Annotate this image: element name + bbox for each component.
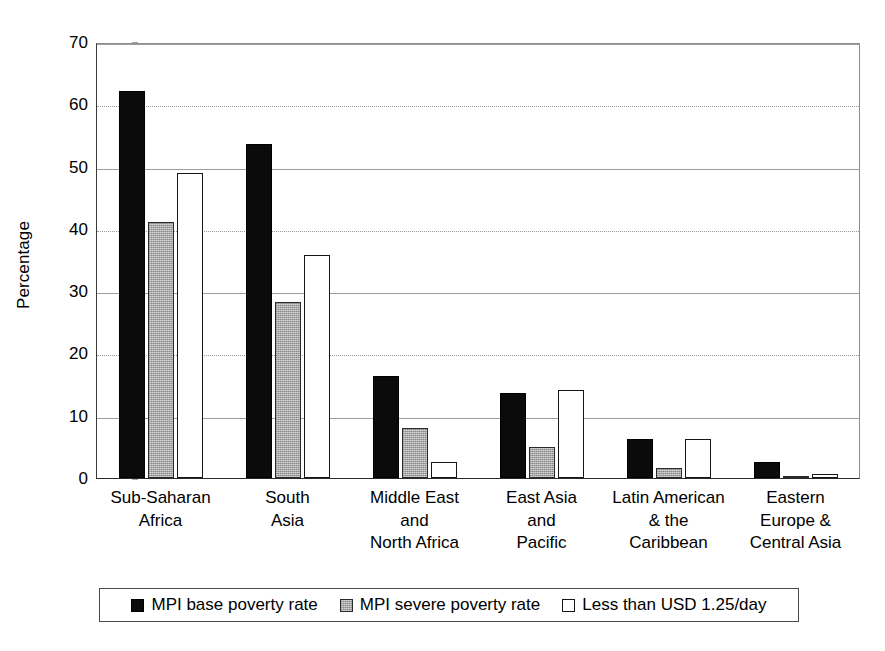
y-axis-title: Percentage bbox=[14, 185, 34, 345]
bar[interactable] bbox=[402, 428, 428, 478]
y-tick-label-0: 0 bbox=[44, 469, 88, 489]
y-tick-label-50: 50 bbox=[44, 158, 88, 178]
y-tick-label-20: 20 bbox=[44, 344, 88, 364]
bar[interactable] bbox=[529, 447, 555, 478]
y-tick-label-70: 70 bbox=[44, 33, 88, 53]
x-axis-category-label: EasternEurope &Central Asia bbox=[732, 487, 859, 555]
bar[interactable] bbox=[275, 302, 301, 478]
bar[interactable] bbox=[119, 91, 145, 478]
gray-square-icon bbox=[340, 599, 353, 612]
x-axis-category-label: SouthAsia bbox=[224, 487, 351, 555]
bar-group bbox=[605, 43, 732, 478]
bar[interactable] bbox=[783, 476, 809, 478]
bar[interactable] bbox=[656, 468, 682, 478]
x-axis-category-label: East AsiaandPacific bbox=[478, 487, 605, 555]
bar-chart: Percentage 706050403020100 Sub-SaharanAf… bbox=[0, 0, 885, 651]
chart-legend: MPI base poverty rateMPI severe poverty … bbox=[99, 588, 799, 622]
x-axis-category-label: Sub-SaharanAfrica bbox=[97, 487, 224, 555]
black-square-icon bbox=[131, 599, 144, 612]
bar[interactable] bbox=[246, 144, 272, 478]
legend-item[interactable]: MPI severe poverty rate bbox=[340, 595, 540, 615]
bar[interactable] bbox=[627, 439, 653, 478]
y-tick-label-10: 10 bbox=[44, 407, 88, 427]
x-axis-category-labels: Sub-SaharanAfricaSouthAsiaMiddle Eastand… bbox=[97, 487, 859, 555]
y-tick-label-30: 30 bbox=[44, 282, 88, 302]
bar[interactable] bbox=[558, 390, 584, 478]
legend-label: Less than USD 1.25/day bbox=[582, 595, 766, 615]
bar-group bbox=[478, 43, 605, 478]
bar[interactable] bbox=[177, 173, 203, 478]
bar-groups bbox=[97, 43, 859, 478]
bar[interactable] bbox=[500, 393, 526, 478]
bar[interactable] bbox=[304, 255, 330, 478]
legend-item[interactable]: MPI base poverty rate bbox=[131, 595, 317, 615]
y-tick-label-40: 40 bbox=[44, 220, 88, 240]
x-axis-category-label: Middle EastandNorth Africa bbox=[351, 487, 478, 555]
x-axis-category-label: Latin American& theCaribbean bbox=[605, 487, 732, 555]
legend-item[interactable]: Less than USD 1.25/day bbox=[562, 595, 766, 615]
bar[interactable] bbox=[812, 474, 838, 478]
y-axis-ticks: 706050403020100 bbox=[40, 43, 88, 479]
bar[interactable] bbox=[754, 462, 780, 478]
bar[interactable] bbox=[148, 222, 174, 478]
white-square-icon bbox=[562, 599, 575, 612]
y-tick-label-60: 60 bbox=[44, 95, 88, 115]
bar[interactable] bbox=[431, 462, 457, 478]
bar[interactable] bbox=[685, 439, 711, 478]
bar-group bbox=[732, 43, 859, 478]
legend-label: MPI severe poverty rate bbox=[360, 595, 540, 615]
bar-group bbox=[351, 43, 478, 478]
bar-group bbox=[224, 43, 351, 478]
bar-group bbox=[97, 43, 224, 478]
legend-label: MPI base poverty rate bbox=[151, 595, 317, 615]
bar[interactable] bbox=[373, 376, 399, 478]
